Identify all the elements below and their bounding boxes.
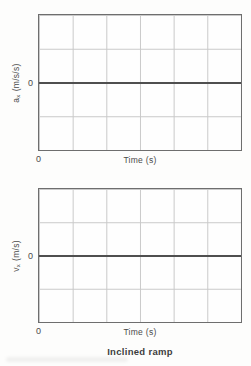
- y-zero-tick-label: 0: [28, 78, 33, 88]
- acceleration-chart: ax(m/s/s) 0 0 Time (s): [38, 14, 242, 151]
- x-origin-tick-label: 0: [36, 154, 41, 164]
- x-axis-title: Time (s): [123, 155, 156, 165]
- axis-symbol: a: [11, 97, 21, 102]
- figure-caption: Inclined ramp: [38, 346, 242, 357]
- velocity-chart: vx(m/s) 0 0 Time (s): [38, 188, 242, 323]
- y-axis-label: vx(m/s): [11, 240, 22, 272]
- x-origin-tick-label: 0: [36, 326, 41, 336]
- zero-line: [39, 255, 241, 257]
- x-axis-title: Time (s): [123, 327, 156, 337]
- axis-unit: (m/s/s): [11, 63, 21, 91]
- plot-area: [38, 188, 242, 323]
- axis-symbol: v: [11, 267, 21, 272]
- axis-subscript: x: [15, 94, 21, 97]
- scan-artifact: [6, 357, 128, 362]
- y-zero-tick-label: 0: [28, 251, 33, 261]
- zero-line: [39, 82, 241, 84]
- figure-container: ax(m/s/s) 0 0 Time (s) vx(m/s) 0 0 Time …: [0, 0, 251, 366]
- axis-subscript: x: [15, 263, 21, 266]
- axis-unit: (m/s): [11, 240, 21, 261]
- plot-area: [38, 14, 242, 151]
- y-axis-label: ax(m/s/s): [11, 63, 22, 102]
